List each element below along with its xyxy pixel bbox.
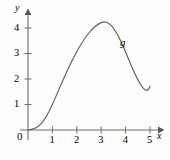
x-tick-label-5: 5 <box>147 134 152 145</box>
function-graph-figure: y x 0 1 2 3 4 1 2 3 4 5 g <box>0 0 170 160</box>
y-axis-arrow-icon <box>25 9 32 16</box>
origin-label: 0 <box>17 130 23 142</box>
y-tick-label-1: 1 <box>14 98 19 109</box>
x-tick-label-2: 2 <box>74 134 79 145</box>
x-tick-label-4: 4 <box>123 134 128 145</box>
y-tick-label-2: 2 <box>14 73 19 84</box>
y-axis-label: y <box>15 2 19 13</box>
curve-g <box>28 22 150 130</box>
x-tick-label-1: 1 <box>50 134 55 145</box>
curve-label-g: g <box>120 36 126 48</box>
y-tick-label-4: 4 <box>14 22 19 33</box>
x-axis-label: x <box>157 130 161 141</box>
plot-area <box>0 0 170 160</box>
y-tick-label-3: 3 <box>14 47 19 58</box>
x-tick-label-3: 3 <box>98 134 103 145</box>
